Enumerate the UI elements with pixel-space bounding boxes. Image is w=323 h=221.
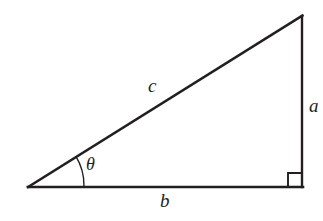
angle-label-theta: θ — [86, 155, 95, 173]
side-label-b: b — [160, 191, 170, 210]
figure-canvas: c a b θ — [0, 0, 323, 221]
side-label-a: a — [309, 96, 319, 115]
right-angle-square-icon — [288, 173, 302, 187]
theta-arc-icon — [76, 156, 84, 186]
right-triangle-drawing — [0, 0, 323, 221]
side-c-line — [28, 16, 303, 188]
side-label-c: c — [148, 76, 156, 95]
